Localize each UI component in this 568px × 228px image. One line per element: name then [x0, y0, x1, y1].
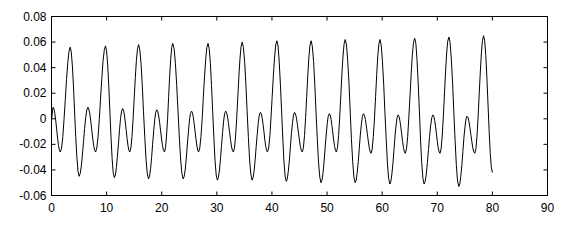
y-tick-label: 0.02 [23, 86, 47, 100]
x-tick-label: 40 [265, 201, 279, 215]
x-tick-label: 90 [541, 201, 555, 215]
x-tick-label: 50 [320, 201, 334, 215]
signal-line [52, 36, 493, 187]
signal-path [52, 36, 493, 187]
x-tick-label: 70 [431, 201, 445, 215]
y-tick-label: 0.08 [23, 10, 47, 24]
y-tick-label: -0.04 [19, 163, 47, 177]
y-tick-label: -0.06 [19, 189, 47, 203]
y-tick-label: 0.06 [23, 35, 47, 49]
x-tick-label: 30 [210, 201, 224, 215]
axes-box [52, 17, 548, 196]
x-tick-label: 0 [48, 201, 55, 215]
y-axis: -0.06-0.04-0.0200.020.040.060.08 [19, 10, 547, 203]
x-tick-label: 20 [155, 201, 169, 215]
line-chart: 0102030405060708090 -0.06-0.04-0.0200.02… [0, 0, 568, 228]
x-tick-label: 80 [486, 201, 500, 215]
x-tick-label: 60 [375, 201, 389, 215]
x-tick-label: 10 [100, 201, 114, 215]
y-tick-label: -0.02 [19, 137, 47, 151]
y-tick-label: 0 [40, 112, 47, 126]
y-tick-label: 0.04 [23, 61, 47, 75]
